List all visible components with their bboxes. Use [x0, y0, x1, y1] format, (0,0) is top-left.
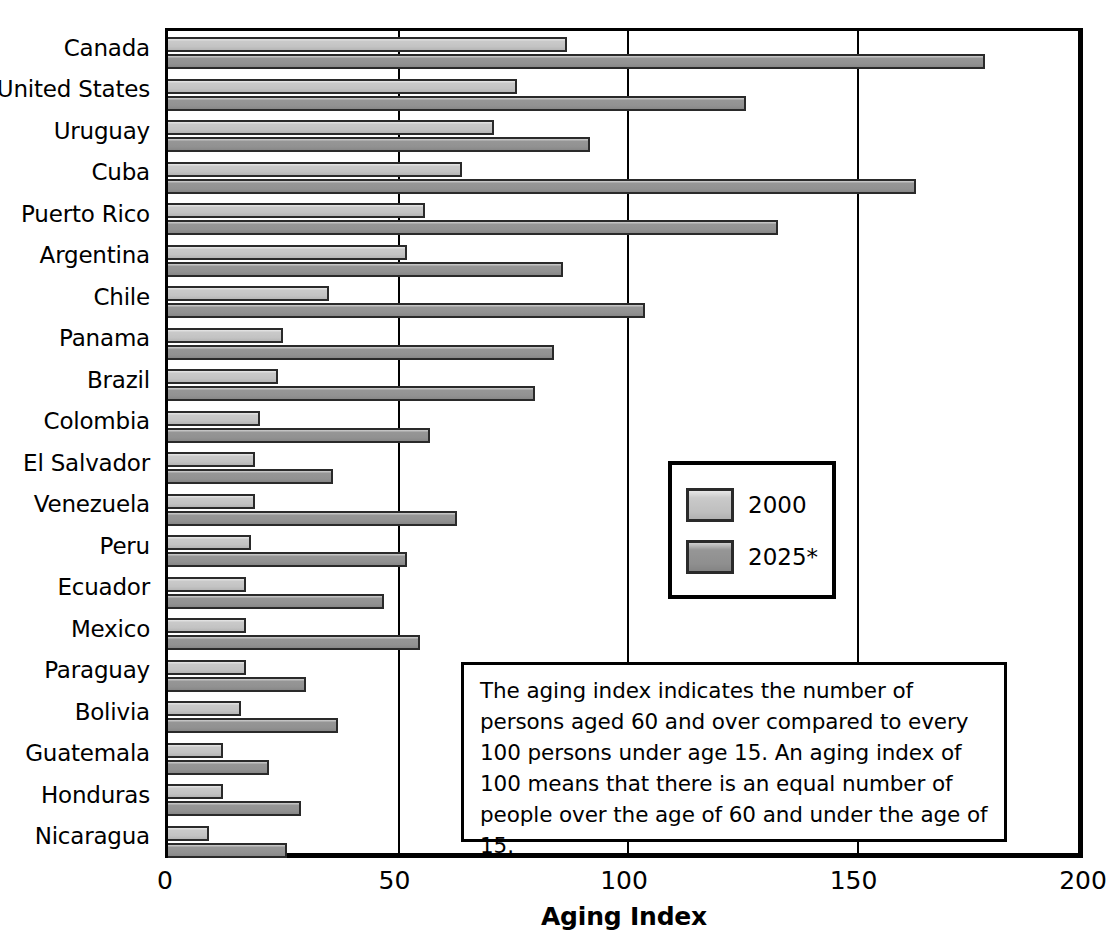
legend-item-2025: 2025* — [686, 531, 832, 583]
bar-puerto-rico-2025 — [168, 220, 778, 235]
bar-group — [168, 612, 1078, 654]
bar-brazil-2025 — [168, 386, 535, 401]
y-label-el-salvador: El Salvador — [23, 452, 150, 475]
bar-nicaragua-2025 — [168, 843, 287, 858]
bar-group — [168, 571, 1078, 613]
bar-panama-2025 — [168, 345, 554, 360]
y-label-canada: Canada — [64, 37, 150, 60]
y-label-ecuador: Ecuador — [57, 576, 150, 599]
bar-group — [168, 73, 1078, 115]
y-label-paraguay: Paraguay — [44, 659, 150, 682]
legend-label-2025: 2025* — [748, 546, 818, 569]
bar-united-states-2000 — [168, 79, 517, 94]
bar-argentina-2025 — [168, 262, 563, 277]
y-label-chile: Chile — [93, 286, 150, 309]
bar-el-salvador-2000 — [168, 452, 255, 467]
note-box: The aging index indicates the number of … — [461, 662, 1007, 842]
bar-united-states-2025 — [168, 96, 746, 111]
x-tick-100: 100 — [600, 866, 648, 895]
bar-peru-2025 — [168, 552, 407, 567]
y-label-cuba: Cuba — [91, 161, 150, 184]
bar-ecuador-2000 — [168, 577, 246, 592]
bar-group — [168, 197, 1078, 239]
bar-group — [168, 239, 1078, 281]
bar-uruguay-2000 — [168, 120, 494, 135]
y-label-nicaragua: Nicaragua — [35, 825, 150, 848]
y-label-brazil: Brazil — [87, 369, 150, 392]
bar-bolivia-2025 — [168, 718, 338, 733]
bar-cuba-2025 — [168, 179, 916, 194]
bar-group — [168, 280, 1078, 322]
bar-brazil-2000 — [168, 369, 278, 384]
y-label-bolivia: Bolivia — [75, 701, 150, 724]
bar-cuba-2000 — [168, 162, 462, 177]
y-label-peru: Peru — [100, 535, 150, 558]
bar-canada-2000 — [168, 37, 567, 52]
aging-index-bar-chart: CanadaUnited StatesUruguayCubaPuerto Ric… — [0, 0, 1109, 938]
bar-group — [168, 446, 1078, 488]
y-label-panama: Panama — [59, 327, 150, 350]
y-label-argentina: Argentina — [40, 244, 150, 267]
bar-group — [168, 363, 1078, 405]
bar-venezuela-2000 — [168, 494, 255, 509]
bar-uruguay-2025 — [168, 137, 590, 152]
x-axis-title: Aging Index — [165, 902, 1083, 931]
note-text: The aging index indicates the number of … — [480, 675, 990, 861]
bar-colombia-2025 — [168, 428, 430, 443]
bar-group — [168, 529, 1078, 571]
bar-peru-2000 — [168, 535, 251, 550]
bar-group — [168, 31, 1078, 73]
bar-canada-2025 — [168, 54, 985, 69]
bar-group — [168, 488, 1078, 530]
bar-group — [168, 405, 1078, 447]
bar-group — [168, 156, 1078, 198]
y-label-guatemala: Guatemala — [25, 742, 150, 765]
bar-honduras-2000 — [168, 784, 223, 799]
y-label-honduras: Honduras — [41, 784, 150, 807]
legend-item-2000: 2000 — [686, 479, 832, 531]
y-label-puerto-rico: Puerto Rico — [21, 203, 150, 226]
x-tick-0: 0 — [157, 866, 173, 895]
x-tick-150: 150 — [830, 866, 878, 895]
bar-panama-2000 — [168, 328, 283, 343]
legend-swatch-2000-icon — [686, 488, 734, 522]
bar-venezuela-2025 — [168, 511, 457, 526]
bar-ecuador-2025 — [168, 594, 384, 609]
bar-guatemala-2000 — [168, 743, 223, 758]
y-label-mexico: Mexico — [71, 618, 150, 641]
bar-colombia-2000 — [168, 411, 260, 426]
x-tick-50: 50 — [379, 866, 411, 895]
bar-group — [168, 114, 1078, 156]
bar-paraguay-2000 — [168, 660, 246, 675]
bar-mexico-2000 — [168, 618, 246, 633]
y-label-united-states: United States — [0, 78, 150, 101]
x-tick-200: 200 — [1059, 866, 1107, 895]
bar-el-salvador-2025 — [168, 469, 333, 484]
legend-swatch-2025-icon — [686, 540, 734, 574]
bar-honduras-2025 — [168, 801, 301, 816]
bar-puerto-rico-2000 — [168, 203, 425, 218]
bar-group — [168, 322, 1078, 364]
bar-chile-2000 — [168, 286, 329, 301]
bar-nicaragua-2000 — [168, 826, 209, 841]
y-label-uruguay: Uruguay — [54, 120, 150, 143]
chart-legend: 2000 2025* — [668, 461, 836, 599]
bar-paraguay-2025 — [168, 677, 306, 692]
bar-guatemala-2025 — [168, 760, 269, 775]
y-axis-category-labels: CanadaUnited StatesUruguayCubaPuerto Ric… — [0, 28, 158, 858]
bar-chile-2025 — [168, 303, 645, 318]
y-label-colombia: Colombia — [44, 410, 150, 433]
legend-label-2000: 2000 — [748, 494, 807, 517]
y-label-venezuela: Venezuela — [34, 493, 150, 516]
bar-mexico-2025 — [168, 635, 420, 650]
x-axis-tick-labels: 050100150200 — [165, 866, 1083, 900]
bar-bolivia-2000 — [168, 701, 241, 716]
bar-argentina-2000 — [168, 245, 407, 260]
